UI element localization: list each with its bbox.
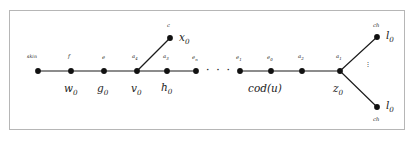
edge-label-skin: skin	[27, 55, 37, 60]
edge-label-ch-top: ch	[373, 23, 379, 28]
node-n6	[237, 68, 243, 74]
vertical-ellipsis: ⋮	[363, 62, 372, 66]
node-label-x0: x0	[179, 32, 190, 45]
node-label-g0-base: g	[97, 82, 104, 94]
edge-label-f: f	[68, 54, 70, 59]
node-n9	[337, 68, 343, 74]
node-label-h0: h0	[161, 82, 172, 95]
node-n0	[35, 68, 41, 74]
node-label-x0-sub: 0	[185, 37, 190, 46]
edge-label-a1-sub: 1	[339, 56, 342, 61]
edge-label-en: en	[192, 55, 198, 62]
node-l0-top	[374, 34, 380, 40]
edge-label-a4: a4	[132, 54, 138, 61]
edge-label-e0: e0	[267, 55, 273, 62]
edge-n9-l0-bottom	[340, 71, 377, 107]
node-label-l0-top: l0	[386, 30, 394, 43]
node-label-h0-base: h	[161, 81, 168, 93]
edge-label-e1-sub: 1	[239, 57, 242, 62]
edge-label-e0-sub: 0	[270, 57, 273, 62]
node-l0-bottom	[374, 104, 380, 110]
node-label-w0: w0	[64, 83, 78, 96]
node-label-v0: v0	[131, 83, 142, 96]
edge-label-c: c	[167, 23, 170, 28]
edge-label-e: e	[102, 55, 105, 60]
node-n8	[299, 68, 305, 74]
edge-label-a1: a1	[336, 54, 342, 61]
node-label-z0: z0	[333, 83, 343, 96]
node-label-h0-sub: 0	[168, 87, 173, 96]
edge-label-en-sub: n	[195, 57, 198, 62]
node-label-l0-bottom-sub: 0	[389, 105, 394, 114]
node-n7	[268, 68, 274, 74]
node-label-v0-sub: 0	[137, 88, 142, 97]
node-label-g0: g0	[97, 83, 108, 96]
edge-label-a4-sub: 4	[135, 56, 138, 61]
node-n2	[101, 68, 107, 74]
node-label-g0-sub: 0	[104, 88, 109, 97]
figure-container: skin f e a4 a3 en e1 e0 a2 a1 c ch ch w0…	[0, 0, 417, 146]
node-x0	[167, 35, 173, 41]
node-label-z0-sub: 0	[339, 88, 344, 97]
edge-label-a2: a2	[298, 54, 304, 61]
horizontal-ellipsis: · · ·	[206, 64, 231, 77]
node-label-w0-base: w	[64, 82, 73, 94]
edge-label-e1: e1	[236, 55, 242, 62]
node-label-l0-bottom: l0	[386, 100, 394, 113]
edge-label-a2-sub: 2	[301, 56, 304, 61]
edge-label-ch-bottom: ch	[373, 117, 379, 122]
node-label-w0-sub: 0	[73, 88, 78, 97]
node-label-cod-u: cod(u)	[248, 83, 282, 94]
edge-label-a3: a3	[163, 54, 169, 61]
node-label-l0-top-sub: 0	[389, 35, 394, 44]
node-n3	[134, 68, 140, 74]
node-n5	[193, 68, 199, 74]
edge-label-a3-sub: 3	[166, 56, 169, 61]
node-n1	[68, 68, 74, 74]
node-n4	[164, 68, 170, 74]
